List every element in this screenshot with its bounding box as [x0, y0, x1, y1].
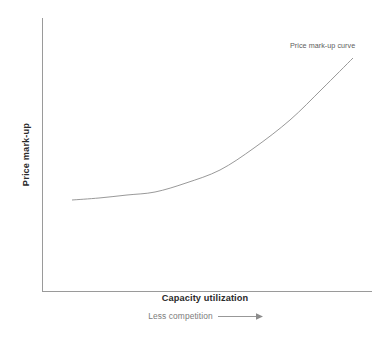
curve-annotation-label: Price mark-up curve — [290, 41, 355, 50]
x-axis-subtitle-text: Less competition — [148, 311, 212, 321]
x-axis-title: Capacity utilization — [0, 293, 376, 303]
y-axis-title-wrapper: Price mark-up — [16, 0, 36, 345]
price-markup-curve-path — [72, 58, 353, 200]
y-axis-title: Price mark-up — [16, 0, 36, 327]
right-arrow-icon — [218, 311, 264, 321]
x-axis-subtitle-group: Less competition — [0, 311, 376, 321]
price-markup-chart: Price mark-up curve Capacity utilization… — [0, 0, 376, 345]
